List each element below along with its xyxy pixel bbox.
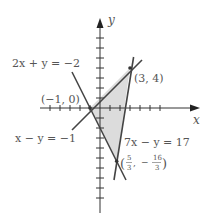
graph: x y 2x + y = −2 x − y = −1 7x − y = 17 (… bbox=[0, 0, 209, 219]
vertex-point bbox=[128, 66, 132, 70]
svg-text:,: , bbox=[133, 158, 136, 168]
vertex-label-3-4: (3, 4) bbox=[134, 72, 164, 85]
line-label-2x-plus-y: 2x + y = −2 bbox=[12, 57, 80, 70]
vertex-point bbox=[115, 160, 119, 164]
svg-text:5: 5 bbox=[127, 154, 131, 162]
svg-text:): ) bbox=[162, 156, 167, 171]
x-axis-arrow-icon bbox=[190, 105, 200, 112]
svg-text:−: − bbox=[141, 157, 149, 167]
vertex-label-fraction: ( 5 3 , − 16 3 ) bbox=[120, 154, 167, 172]
line-label-x-minus-y: x − y = −1 bbox=[15, 132, 76, 145]
svg-text:3: 3 bbox=[127, 164, 131, 172]
vertex-point bbox=[88, 106, 92, 110]
x-axis-label: x bbox=[193, 113, 200, 127]
y-axis-arrow-icon bbox=[97, 18, 104, 28]
svg-text:3: 3 bbox=[155, 164, 159, 172]
vertex-label-neg1-0: (−1, 0) bbox=[41, 93, 80, 106]
svg-text:(: ( bbox=[120, 156, 125, 171]
y-axis-label: y bbox=[107, 13, 115, 27]
line-label-7x-minus-y: 7x − y = 17 bbox=[124, 136, 190, 149]
